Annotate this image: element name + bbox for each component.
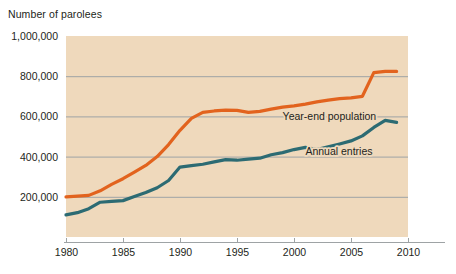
chart-plot-area: 200,000400,000600,000800,0001,000,000198… xyxy=(0,0,456,274)
series-label-year-end-population: Year-end population xyxy=(283,110,377,122)
x-tick-label: 1980 xyxy=(55,246,79,258)
parolees-line-chart: Number of parolees 200,000400,000600,000… xyxy=(0,0,456,274)
x-tick-label: 2010 xyxy=(397,246,421,258)
x-tick-label: 1985 xyxy=(112,246,136,258)
y-tick-label: 1,000,000 xyxy=(11,30,58,42)
y-tick-label: 600,000 xyxy=(20,110,58,122)
y-tick-label: 200,000 xyxy=(20,191,58,203)
y-tick-label: 400,000 xyxy=(20,151,58,163)
x-tick-label: 1995 xyxy=(226,246,250,258)
y-tick-label: 800,000 xyxy=(20,70,58,82)
plot-background-band xyxy=(66,36,408,237)
series-label-annual-entries: Annual entries xyxy=(305,145,372,157)
x-tick-label: 1990 xyxy=(169,246,193,258)
x-tick-label: 2000 xyxy=(283,246,307,258)
x-tick-label: 2005 xyxy=(340,246,364,258)
